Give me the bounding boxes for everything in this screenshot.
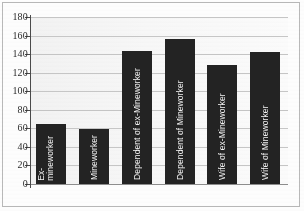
bar[interactable]: Dependent of ex-Mineworker	[122, 51, 152, 184]
chart-figure: Ex-mineworkerMineworkerDependent of ex-M…	[0, 0, 304, 211]
gridline-160	[31, 36, 288, 37]
y-axis-tick-label: 120	[12, 68, 28, 78]
gridline-180	[31, 17, 288, 18]
bar-category-label: Wife of Mineworker	[261, 105, 270, 180]
y-axis-tick-label: 140	[12, 49, 28, 59]
y-axis-tick-label: 80	[18, 105, 28, 115]
bar-category-label: Mineworker	[89, 135, 98, 180]
y-axis-tick-label: 0	[23, 179, 28, 189]
plot-area: Ex-mineworkerMineworkerDependent of ex-M…	[31, 17, 288, 184]
bar[interactable]: Mineworker	[79, 129, 109, 184]
y-axis-labels: 020406080100120140160180	[0, 0, 30, 211]
y-axis-tick-label: 40	[18, 142, 28, 152]
y-axis-tick-label: 160	[12, 31, 28, 41]
y-axis-tick-label: 100	[12, 86, 28, 96]
y-axis-tick-label: 20	[18, 160, 28, 170]
y-axis-tick-label: 180	[12, 12, 28, 22]
bar[interactable]: Ex-mineworker	[36, 124, 66, 184]
gridline-0	[31, 184, 288, 185]
bar-category-label: Dependent of ex-Mineworker	[132, 68, 141, 180]
y-axis-line	[30, 15, 31, 188]
y-axis-tick-label: 60	[18, 123, 28, 133]
bar[interactable]: Dependent of Mineworker	[165, 39, 195, 184]
bar-category-label: Ex-mineworker	[37, 127, 55, 181]
bar[interactable]: Wife of ex-Mineworker	[207, 65, 237, 184]
bar-category-label: Dependent of Mineworker	[175, 80, 184, 180]
bar[interactable]: Wife of Mineworker	[250, 52, 280, 184]
bar-category-label: Wife of ex-Mineworker	[218, 93, 227, 180]
